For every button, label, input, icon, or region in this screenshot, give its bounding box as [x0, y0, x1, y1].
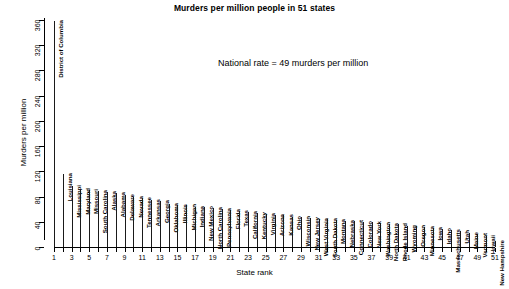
x-tick: [301, 248, 302, 252]
x-tick-label: 35: [346, 254, 362, 261]
bar: [345, 221, 346, 247]
x-tick: [107, 248, 108, 252]
bar: [72, 186, 73, 247]
x-tick: [98, 248, 99, 252]
x-tick-label: 45: [434, 254, 450, 261]
bar: [407, 226, 408, 247]
x-tick: [80, 248, 81, 252]
x-tick-label: 39: [381, 254, 397, 261]
bar: [389, 224, 390, 247]
x-tick: [398, 248, 399, 252]
x-tick: [195, 248, 196, 252]
bar: [460, 231, 461, 247]
x-tick-label: 37: [364, 254, 380, 261]
bar: [107, 192, 108, 247]
x-tick-label: 15: [169, 254, 185, 261]
x-tick: [283, 248, 284, 252]
bar: [319, 219, 320, 247]
x-tick-label: 3: [64, 254, 80, 261]
x-tick: [54, 248, 55, 252]
x-tick: [407, 248, 408, 252]
bar: [222, 209, 223, 247]
bar: [372, 222, 373, 247]
x-tick-label: 21: [222, 254, 238, 261]
bar: [327, 219, 328, 247]
x-tick: [380, 248, 381, 252]
x-tick: [363, 248, 364, 252]
x-tick-label: 33: [328, 254, 344, 261]
bar: [266, 214, 267, 247]
x-tick: [133, 248, 134, 252]
x-tick: [416, 248, 417, 252]
bar: [142, 198, 143, 247]
chart-canvas: Murders per million people in 51 states …: [0, 0, 509, 289]
x-tick-label: 47: [452, 254, 468, 261]
x-tick: [151, 248, 152, 252]
x-tick: [239, 248, 240, 252]
x-tick: [477, 248, 478, 252]
x-tick-label: 7: [99, 254, 115, 261]
x-tick: [169, 248, 170, 252]
bar: [169, 204, 170, 247]
bar: [239, 211, 240, 247]
bar: [363, 222, 364, 247]
x-tick: [345, 248, 346, 252]
bar: [116, 193, 117, 247]
x-tick: [116, 248, 117, 252]
x-tick: [266, 248, 267, 252]
bar: [213, 208, 214, 247]
x-tick-label: 9: [117, 254, 133, 261]
bar: [248, 212, 249, 247]
x-tick-label: 43: [416, 254, 432, 261]
bar: [495, 241, 496, 247]
x-tick: [248, 248, 249, 252]
x-tick-label: 23: [240, 254, 256, 261]
bar: [125, 195, 126, 247]
x-tick: [495, 248, 496, 252]
bar: [424, 227, 425, 247]
x-tick: [486, 248, 487, 252]
bar: [186, 205, 187, 247]
bar: [204, 207, 205, 247]
x-tick-label: 5: [81, 254, 97, 261]
bar: [451, 230, 452, 247]
x-tick: [336, 248, 337, 252]
bar: [486, 236, 487, 247]
x-tick-label: 27: [275, 254, 291, 261]
x-tick-label: 19: [205, 254, 221, 261]
x-tick: [469, 248, 470, 252]
bar: [292, 217, 293, 247]
bar: [80, 189, 81, 247]
bar: [177, 205, 178, 247]
x-tick-label: 31: [311, 254, 327, 261]
x-tick: [275, 248, 276, 252]
bar: [433, 228, 434, 247]
x-tick: [389, 248, 390, 252]
bar: [160, 201, 161, 247]
x-tick-label: 1: [46, 254, 62, 261]
x-tick: [186, 248, 187, 252]
bar: [301, 217, 302, 247]
bar: [275, 215, 276, 247]
x-tick: [222, 248, 223, 252]
x-tick: [354, 248, 355, 252]
x-tick: [142, 248, 143, 252]
x-tick: [372, 248, 373, 252]
x-tick-label: 49: [469, 254, 485, 261]
x-tick: [89, 248, 90, 252]
bar: [195, 207, 196, 247]
x-tick: [310, 248, 311, 252]
bar: [416, 226, 417, 247]
bar: [380, 223, 381, 247]
bar: [354, 221, 355, 247]
x-tick: [442, 248, 443, 252]
x-tick: [327, 248, 328, 252]
bar: [310, 218, 311, 247]
x-tick: [177, 248, 178, 252]
x-tick: [160, 248, 161, 252]
bar: [283, 215, 284, 247]
bar: [98, 191, 99, 247]
x-tick: [451, 248, 452, 252]
x-tick-label: 11: [134, 254, 150, 261]
x-tick: [230, 248, 231, 252]
